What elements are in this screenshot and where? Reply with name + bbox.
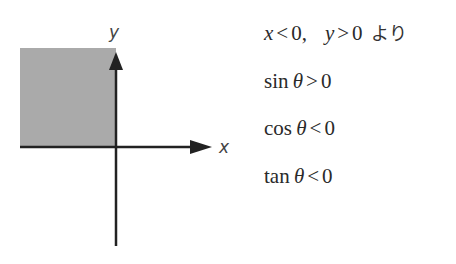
tan-val: 0 (322, 164, 333, 188)
cos-theta: θ (296, 116, 306, 140)
premise-separator: , (302, 21, 307, 45)
sin-func: sin (264, 69, 289, 93)
coordinate-diagram: x y (0, 0, 250, 264)
cos-func: cos (264, 116, 292, 140)
premise-y-val: 0 (352, 21, 363, 45)
premise-x-val: 0 (291, 21, 302, 45)
premise-suffix: より (371, 23, 407, 44)
premise-y-var: y (325, 21, 334, 45)
y-axis-label: y (108, 22, 120, 42)
premise-x-op: < (276, 21, 288, 45)
x-axis-arrowhead-icon (190, 140, 212, 154)
premise-line: x<0,y>0より (264, 23, 407, 44)
tan-func: tan (264, 164, 290, 188)
sin-op: > (306, 69, 318, 93)
tan-op: < (307, 164, 319, 188)
premise-x-var: x (264, 21, 273, 45)
sin-val: 0 (321, 69, 332, 93)
sin-condition: sin θ>0 (264, 71, 331, 92)
sin-theta: θ (293, 69, 303, 93)
shaded-second-quadrant (20, 48, 116, 147)
tan-theta: θ (294, 164, 304, 188)
tan-condition: tan θ<0 (264, 166, 333, 187)
premise-y-op: > (337, 21, 349, 45)
cos-op: < (310, 116, 322, 140)
x-axis-label: x (218, 137, 230, 157)
axes-figure: x y (0, 0, 250, 264)
cos-condition: cos θ<0 (264, 118, 335, 139)
cos-val: 0 (324, 116, 335, 140)
